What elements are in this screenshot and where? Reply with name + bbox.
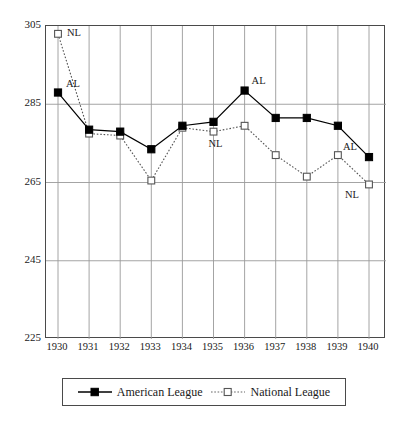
point-annotation: NL xyxy=(345,189,359,200)
y-tick-label: 305 xyxy=(25,19,42,30)
chart-container: 305 285 265 245 225 NLALNLALALNL 1930193… xyxy=(0,0,407,428)
legend-label-national-league: National League xyxy=(250,386,330,399)
x-tick-label: 1930 xyxy=(47,341,68,353)
chart-svg xyxy=(46,26,386,339)
x-tick-label: 1937 xyxy=(264,341,285,353)
legend-item-american-league[interactable]: American League xyxy=(78,386,203,399)
x-axis-labels: 1930193119321933193419351936193719381939… xyxy=(0,341,407,357)
y-axis-labels: 305 285 265 245 225 xyxy=(0,0,41,428)
y-tick-label: 265 xyxy=(25,176,42,187)
x-tick-label: 1934 xyxy=(171,341,192,353)
legend-key-solid-square-icon xyxy=(78,386,112,398)
plot-area: NLALNLALALNL xyxy=(45,25,385,338)
x-tick-label: 1935 xyxy=(202,341,223,353)
x-tick-label: 1939 xyxy=(326,341,347,353)
chart-legend: American League National League xyxy=(62,378,346,406)
legend-item-national-league[interactable]: National League xyxy=(211,386,330,399)
point-annotation: NL xyxy=(67,27,81,38)
x-tick-label: 1931 xyxy=(78,341,99,353)
x-tick-label: 1940 xyxy=(358,341,379,353)
y-tick-label: 285 xyxy=(25,97,42,108)
x-tick-label: 1938 xyxy=(295,341,316,353)
x-tick-label: 1936 xyxy=(233,341,254,353)
y-tick-label: 245 xyxy=(25,254,42,265)
x-tick-label: 1933 xyxy=(140,341,161,353)
legend-label-american-league: American League xyxy=(117,386,203,399)
x-tick-label: 1932 xyxy=(109,341,130,353)
point-annotation: AL xyxy=(252,75,266,86)
point-annotation: AL xyxy=(66,78,80,89)
point-annotation: AL xyxy=(343,141,357,152)
legend-key-open-square-icon xyxy=(211,386,245,398)
point-annotation: NL xyxy=(209,138,223,149)
